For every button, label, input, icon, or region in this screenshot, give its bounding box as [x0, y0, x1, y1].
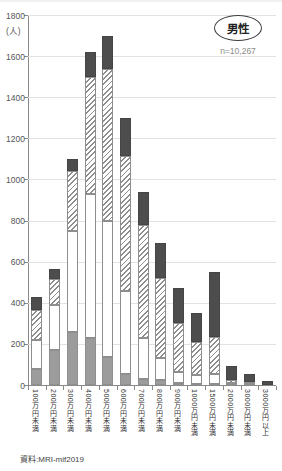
x-axis-label: 2000万円未満 — [227, 389, 234, 457]
y-axis-tick-label: 1200 — [1, 134, 25, 144]
bar-segment-bottom-gray-solid — [102, 357, 113, 385]
bar-segment-white-plain — [67, 231, 78, 332]
x-axis-tick — [134, 386, 135, 390]
x-axis-label: 1500万円未満 — [209, 389, 216, 457]
gridline — [28, 344, 276, 345]
x-axis-label: 700万円未満 — [138, 389, 145, 457]
bar-segment-diagonal-hatch — [191, 342, 202, 375]
bar-segment-bottom-gray-solid — [155, 380, 166, 385]
x-axis-label: 800万円未満 — [156, 389, 163, 457]
legend: 男性 n=10,267 — [204, 15, 272, 56]
bar-segment-diagonal-hatch — [120, 156, 131, 292]
y-axis-tick-label: 1000 — [1, 175, 25, 185]
x-axis-tick — [241, 386, 242, 390]
y-axis-tick-label: 600 — [1, 257, 25, 267]
x-axis-label: 600万円未満 — [120, 389, 127, 457]
x-axis-tick — [28, 386, 29, 390]
gridline — [28, 97, 276, 98]
x-axis-tick — [205, 386, 206, 390]
chart-container: (人) 男性 n=10,267 資料:MRI-mif2019 020040060… — [0, 0, 282, 471]
bar-segment-white-plain — [120, 291, 131, 373]
bar-segment-white-plain — [226, 383, 237, 385]
gridline — [28, 56, 276, 57]
bar-segment-diagonal-hatch — [67, 171, 78, 231]
x-axis-tick — [81, 386, 82, 390]
bar-segment-white-plain — [173, 372, 184, 383]
y-axis-tick-label: 1400 — [1, 93, 25, 103]
x-axis-tick — [187, 386, 188, 390]
x-axis-label: 3000万円以上 — [262, 389, 269, 457]
bar-segment-top-dark-gray — [173, 288, 184, 323]
y-axis-tick-label: 1800 — [1, 11, 25, 21]
bar-segment-bottom-gray-solid — [31, 369, 42, 385]
bar-segment-bottom-gray-solid — [49, 350, 60, 385]
y-axis-tick-label: 800 — [1, 216, 25, 226]
bar-segment-bottom-gray-solid — [138, 379, 149, 385]
bar-segment-bottom-gray-solid — [120, 374, 131, 385]
bar-segment-diagonal-hatch — [173, 323, 184, 371]
bar-segment-diagonal-hatch — [244, 382, 255, 384]
x-axis-tick — [170, 386, 171, 390]
bar-segment-white-plain — [209, 374, 220, 384]
gridline — [28, 303, 276, 304]
y-axis-tick-label: 200 — [1, 339, 25, 349]
gridline — [28, 262, 276, 263]
plot-area — [28, 15, 276, 385]
bar-segment-bottom-gray-solid — [67, 332, 78, 385]
bar-segment-white-plain — [138, 338, 149, 379]
bar-segment-top-dark-gray — [138, 192, 149, 225]
y-axis-tick-label: 0 — [1, 381, 25, 391]
bar-segment-bottom-gray-solid — [173, 383, 184, 385]
bar-segment-top-dark-gray — [120, 118, 131, 156]
legend-male-badge: 男性 — [214, 15, 262, 41]
bar-segment-diagonal-hatch — [226, 380, 237, 383]
x-axis-label: 200万円未満 — [50, 389, 57, 457]
bar-segment-white-plain — [191, 375, 202, 384]
bar-segment-white-plain — [102, 221, 113, 358]
bar-segment-top-dark-gray — [67, 159, 78, 171]
bar-segment-diagonal-hatch — [85, 77, 96, 194]
x-axis-tick — [258, 386, 259, 390]
bar-segment-bottom-gray-solid — [85, 338, 96, 385]
bar-segment-white-plain — [155, 358, 166, 380]
gridline — [28, 221, 276, 222]
cropped-text-remnant — [0, 0, 282, 2]
x-axis-label: 400万円未満 — [85, 389, 92, 457]
bar-segment-top-dark-gray — [191, 313, 202, 342]
legend-sample-size: n=10,267 — [204, 46, 272, 56]
bar-segment-top-dark-gray — [209, 272, 220, 337]
bar-segment-white-plain — [49, 305, 60, 350]
x-axis-tick — [117, 386, 118, 390]
gridline — [28, 179, 276, 180]
bar-segment-top-dark-gray — [85, 52, 96, 77]
x-axis-label: 500万円未満 — [103, 389, 110, 457]
bar-segment-top-dark-gray — [262, 381, 273, 385]
x-axis-label: 900万円未満 — [174, 389, 181, 457]
bar-segment-diagonal-hatch — [209, 337, 220, 374]
bar-segment-top-dark-gray — [244, 374, 255, 382]
bar-segment-diagonal-hatch — [31, 310, 42, 340]
x-axis-tick — [152, 386, 153, 390]
bar-segment-diagonal-hatch — [49, 279, 60, 305]
bar-segment-diagonal-hatch — [102, 69, 113, 220]
y-axis-tick-label: 1600 — [1, 52, 25, 62]
x-axis-tick — [46, 386, 47, 390]
y-axis-tick-label: 400 — [1, 298, 25, 308]
bar-segment-top-dark-gray — [49, 269, 60, 279]
x-axis-tick — [223, 386, 224, 390]
bar-segment-top-dark-gray — [31, 297, 42, 310]
gridline — [28, 138, 276, 139]
x-axis-tick — [99, 386, 100, 390]
bar-segment-top-dark-gray — [226, 366, 237, 380]
x-axis-label: 300万円未満 — [67, 389, 74, 457]
bar-segment-white-plain — [85, 194, 96, 338]
x-axis-label: 3000万円未満 — [244, 389, 251, 457]
x-axis-tick — [276, 386, 277, 390]
bar-segment-white-plain — [31, 340, 42, 369]
bar-segment-top-dark-gray — [155, 243, 166, 278]
bar-segment-diagonal-hatch — [155, 278, 166, 358]
x-axis-label: 100万円未満 — [32, 389, 39, 457]
x-axis-label: 1000万円未満 — [191, 389, 198, 457]
bar-segment-top-dark-gray — [102, 36, 113, 70]
x-axis-tick — [63, 386, 64, 390]
